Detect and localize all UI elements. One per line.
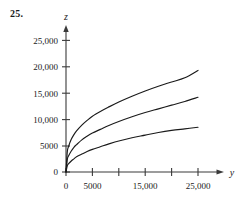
z-axis-tick-labels: 25,000 20,000 15,000 10,000 5000 0 — [33, 36, 58, 178]
curve-group — [66, 70, 198, 172]
y-axis-label: y — [229, 167, 235, 178]
y-tick-label-0: 0 — [64, 181, 69, 191]
z-tick-label-0: 0 — [54, 167, 59, 177]
graph-svg: 25,000 20,000 15,000 10,000 5000 0 0 500… — [0, 0, 244, 200]
z-tick-label-10000: 10,000 — [33, 115, 58, 125]
y-tick-label-5000: 5000 — [83, 181, 102, 191]
z-tick-label-15000: 15,000 — [33, 89, 58, 99]
curve-lower — [66, 127, 198, 172]
figure-container: 25. 25,000 20,000 15,000 10,000 — [0, 0, 244, 200]
curve-middle — [66, 97, 198, 172]
z-tick-label-25000: 25,000 — [33, 36, 58, 46]
z-tick-label-5000: 5000 — [40, 141, 59, 151]
z-axis-label: z — [63, 11, 68, 22]
z-tick-label-20000: 20,000 — [33, 62, 58, 72]
y-axis-tick-labels: 0 5000 15,000 25,000 — [64, 181, 211, 191]
exercise-number: 25. — [10, 9, 23, 19]
curve-upper — [66, 70, 198, 172]
y-tick-label-15000: 15,000 — [133, 181, 158, 191]
y-tick-label-25000: 25,000 — [186, 181, 211, 191]
